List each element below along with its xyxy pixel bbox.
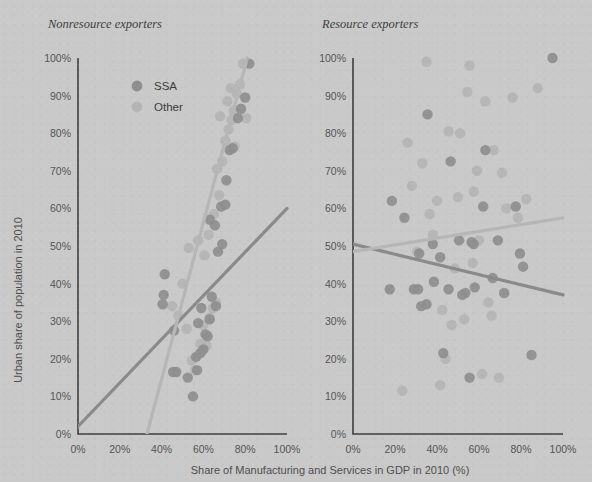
data-point — [199, 250, 209, 260]
data-point — [181, 324, 191, 334]
y-tick-label: 80% — [325, 127, 346, 139]
data-point — [462, 87, 472, 97]
x-tick-label: 100% — [274, 443, 301, 455]
panel-title: Resource exporters — [321, 17, 419, 31]
data-point — [464, 60, 474, 70]
data-point — [429, 277, 439, 287]
data-point — [443, 126, 453, 136]
data-point — [413, 284, 423, 294]
data-point — [435, 380, 445, 390]
data-point — [432, 196, 442, 206]
data-point — [198, 344, 208, 354]
x-tick-label: 20% — [384, 443, 405, 455]
data-point — [469, 239, 479, 249]
data-point — [221, 175, 231, 185]
data-point — [184, 243, 194, 253]
data-point — [196, 303, 206, 313]
y-tick-label: 90% — [325, 90, 346, 102]
data-point — [478, 201, 488, 211]
data-point — [459, 314, 469, 324]
legend-label: SSA — [154, 80, 177, 92]
legend-item-ssa[interactable]: SSA — [132, 80, 178, 92]
data-point — [214, 190, 224, 200]
data-point — [480, 145, 490, 155]
legend: SSAOther — [132, 80, 183, 113]
data-point — [233, 113, 243, 123]
x-tick-label: 80% — [510, 443, 531, 455]
data-point — [480, 96, 490, 106]
legend-item-other[interactable]: Other — [132, 101, 183, 113]
data-point — [507, 92, 517, 102]
data-point — [225, 83, 235, 93]
data-point — [511, 201, 521, 211]
x-tick-label: 40% — [426, 443, 447, 455]
data-point — [203, 230, 213, 240]
axis-lines — [78, 58, 287, 434]
panel-title: Nonresource exporters — [47, 17, 162, 31]
data-point — [220, 199, 230, 209]
y-tick-label: 40% — [50, 278, 71, 290]
data-point — [414, 248, 424, 258]
x-axis-title: Share of Manufacturing and Services in G… — [191, 464, 470, 476]
x-tick-label: 0% — [70, 443, 85, 455]
data-point — [521, 194, 531, 204]
data-point — [236, 104, 246, 114]
x-tick-label: 60% — [468, 443, 489, 455]
data-point — [464, 372, 474, 382]
trendline-ssa — [353, 244, 563, 295]
y-axis-title: Urban share of population in 2010 — [12, 217, 24, 383]
data-point — [192, 365, 202, 375]
x-tick-label: 60% — [193, 443, 214, 455]
y-tick-label: 100% — [319, 52, 346, 64]
data-point — [399, 213, 409, 223]
x-tick-label: 100% — [550, 443, 577, 455]
y-tick-label: 30% — [50, 315, 71, 327]
scatter-figure: Nonresource exporters0%10%20%30%40%50%60… — [0, 0, 592, 482]
series-other-points — [397, 57, 543, 396]
data-point — [477, 369, 487, 379]
y-tick-label: 10% — [325, 390, 346, 402]
y-tick-label: 90% — [50, 90, 71, 102]
legend-label: Other — [154, 101, 183, 113]
data-point — [443, 284, 453, 294]
trendline-other — [147, 58, 247, 434]
data-point — [222, 96, 232, 106]
y-tick-label: 40% — [325, 278, 346, 290]
data-point — [533, 83, 543, 93]
data-point — [547, 53, 557, 63]
data-point — [417, 158, 427, 168]
data-point — [207, 292, 217, 302]
data-point — [518, 261, 528, 271]
data-point — [240, 92, 250, 102]
data-point — [483, 297, 493, 307]
data-point — [402, 137, 412, 147]
data-point — [202, 331, 212, 341]
y-tick-label: 20% — [325, 353, 346, 365]
data-point — [171, 367, 181, 377]
y-tick-label: 50% — [50, 240, 71, 252]
data-point — [513, 213, 523, 223]
y-tick-label: 50% — [325, 240, 346, 252]
data-point — [438, 348, 448, 358]
y-tick-label: 0% — [56, 428, 71, 440]
y-tick-label: 30% — [325, 315, 346, 327]
y-tick-label: 80% — [50, 127, 71, 139]
data-point — [424, 209, 434, 219]
x-tick-label: 20% — [109, 443, 130, 455]
data-point — [526, 350, 536, 360]
data-point — [422, 109, 432, 119]
data-point — [157, 299, 167, 309]
data-point — [470, 282, 480, 292]
y-tick-label: 60% — [50, 202, 71, 214]
series-ssa-points — [385, 53, 558, 383]
data-point — [211, 301, 221, 311]
panel-resource-exporters: Resource exporters0%10%20%30%40%50%60%70… — [319, 17, 576, 455]
y-tick-label: 10% — [50, 390, 71, 402]
data-point — [472, 166, 482, 176]
x-tick-label: 80% — [235, 443, 256, 455]
data-point — [215, 111, 225, 121]
trendline-ssa — [78, 208, 287, 426]
x-tick-label: 0% — [345, 443, 360, 455]
data-point — [494, 372, 504, 382]
legend-swatch-other-icon — [132, 102, 143, 113]
